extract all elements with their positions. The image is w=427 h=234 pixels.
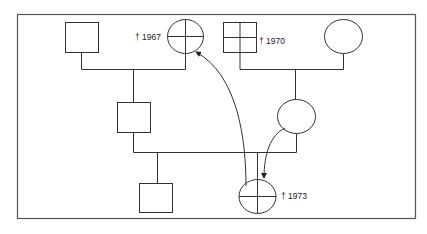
parent-couple-line [134,133,297,153]
paternal-couple-line [82,53,186,70]
arrow-daughter-to-grandmother [196,52,246,186]
paternal-grandfather-square [66,23,99,53]
death-label-1970: † 1970 [259,36,285,46]
maternal-grandfather-square-deceased [224,23,257,53]
pedigree-diagram: † 1967 † 1970 † 1973 [0,0,427,234]
father-square [118,103,151,133]
paternal-grandmother-circle-deceased [168,20,204,54]
death-label-1967: † 1967 [135,32,161,42]
death-label-1973: † 1973 [281,191,307,201]
maternal-couple-line [240,53,344,70]
son-square [140,184,173,213]
daughter-circle-deceased [239,180,276,214]
maternal-grandmother-circle [325,20,363,54]
diagram-frame [18,15,416,219]
